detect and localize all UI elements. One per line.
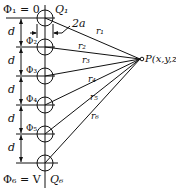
point-label: P(x,y,z)	[145, 54, 176, 64]
phi2-label: Φ₂	[26, 37, 37, 46]
r3-label: r₃	[82, 56, 90, 65]
d-label-3: d	[8, 84, 15, 95]
q6-label: Q₆	[50, 174, 63, 185]
r5-label: r₅	[90, 93, 98, 102]
d-label-1: d	[8, 26, 15, 37]
r2-label: r₂	[78, 42, 86, 51]
d-label-4: d	[8, 113, 15, 124]
phi1-label: Φ₁ = 0	[3, 4, 40, 15]
phi6-label: Φ₆ = V	[3, 174, 41, 185]
diameter-label: 2a	[72, 18, 86, 29]
point-p	[140, 57, 144, 61]
phi4-label: Φ₄	[26, 95, 37, 104]
phi3-label: Φ₃	[26, 66, 37, 75]
r1-label: r₁	[96, 27, 104, 36]
d-label-2: d	[8, 55, 15, 66]
d-label-5: d	[8, 142, 15, 153]
r4-label: r₄	[88, 75, 96, 84]
phi5-label: Φ₅	[26, 124, 37, 133]
r6-label: r₆	[91, 112, 99, 121]
q1-label: Q₁	[55, 4, 68, 15]
